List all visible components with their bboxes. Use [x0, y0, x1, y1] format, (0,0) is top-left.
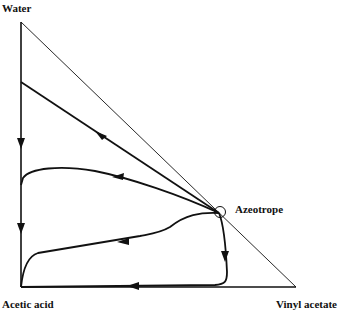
arrow-icon — [221, 251, 229, 262]
residue-curve-map: Water Acetic acid Vinyl acetate Azeotrop… — [0, 0, 343, 314]
arrow-icon — [112, 173, 124, 180]
arrow-icon — [17, 138, 25, 149]
ternary-diagram — [0, 0, 343, 314]
vertex-label-water: Water — [2, 2, 31, 14]
vertex-label-acetic-acid: Acetic acid — [2, 298, 54, 310]
direction-arrows — [17, 131, 229, 290]
hypotenuse-edge — [21, 22, 296, 287]
residue-curve-1 — [21, 82, 219, 213]
azeotrope-label: Azeotrope — [235, 203, 283, 215]
arrow-icon — [127, 282, 139, 290]
vertex-label-vinyl-acetate: Vinyl acetate — [276, 298, 337, 310]
arrow-icon — [17, 223, 25, 234]
residue-curve-3 — [21, 213, 219, 287]
